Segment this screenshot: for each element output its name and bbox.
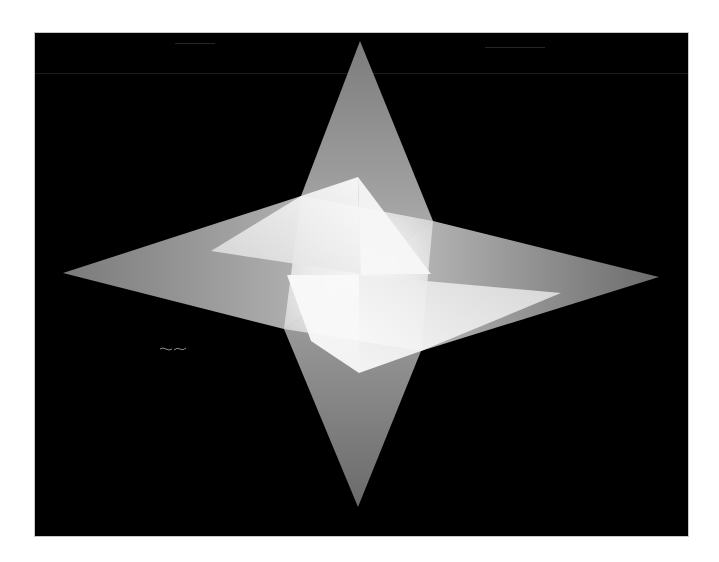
- star-artwork: [35, 33, 689, 537]
- image-frame: [34, 32, 689, 537]
- stray-scribble-mark: [159, 346, 187, 352]
